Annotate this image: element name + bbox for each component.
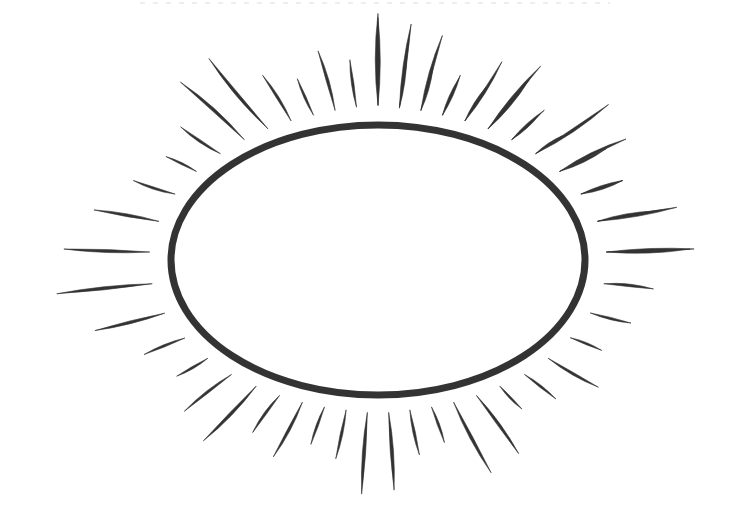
sun-burst-artwork	[0, 0, 750, 529]
drawing-canvas	[0, 0, 750, 529]
canvas-background	[0, 0, 750, 529]
